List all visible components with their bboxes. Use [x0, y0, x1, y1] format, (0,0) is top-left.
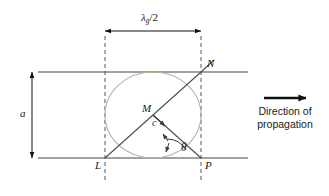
guide-wavelength-divisor: /2 [150, 11, 159, 23]
angle-label-theta: θ [181, 142, 187, 154]
point-label-L: L [95, 160, 101, 171]
guide-width-label: a [20, 108, 26, 119]
guide-wavelength-subscript: g [146, 16, 150, 25]
point-label-N: N [207, 58, 214, 69]
angle-arc-upper-arrow [163, 134, 168, 141]
point-label-M: M [142, 103, 151, 114]
diagram-canvas [0, 0, 329, 196]
angle-arc-lower-arrow [166, 143, 169, 152]
direction-line-2: propagation [257, 118, 312, 130]
point-label-c: c [152, 118, 156, 128]
direction-line-1: Direction of [258, 105, 311, 117]
direction-of-propagation-label: Direction of propagation [249, 105, 321, 130]
point-label-P: P [205, 160, 212, 171]
guide-wavelength-label: λg/2 [141, 12, 158, 23]
waveguide-propagation-diagram: λg/2 a L N P M c θ Direction of propagat… [0, 0, 329, 196]
